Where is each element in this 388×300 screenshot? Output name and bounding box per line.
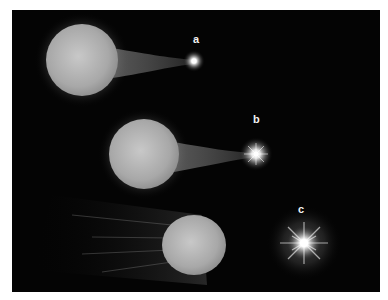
stage-c-companion-core	[300, 239, 308, 247]
stage-b-label: b	[253, 114, 260, 125]
stage-a	[34, 12, 205, 108]
figure-panel: a b c	[12, 10, 380, 292]
stage-a-giant-star	[46, 24, 118, 96]
stage-b-giant-star	[109, 119, 179, 189]
stage-a-label: a	[193, 34, 199, 45]
stage-a-companion-core	[192, 59, 197, 64]
stage-b	[98, 108, 273, 200]
stage-c	[32, 195, 342, 285]
illustration-canvas	[12, 10, 380, 292]
stage-c-giant-star	[162, 215, 226, 275]
stage-c-label: c	[298, 204, 304, 215]
stage-b-companion-core	[254, 152, 259, 157]
stage-a-gas-stream	[112, 48, 194, 78]
